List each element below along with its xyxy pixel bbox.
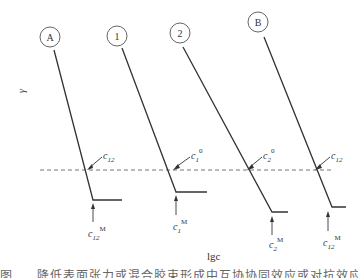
curve-b-cmc-label: c12M <box>323 234 341 251</box>
curve-a-line <box>54 50 122 200</box>
curve-a-label: A <box>46 32 54 43</box>
arrow-head-icon <box>87 164 93 170</box>
curve-1-label: 1 <box>115 31 120 42</box>
arrow-head-icon <box>91 203 95 209</box>
curve-b-line <box>264 37 346 207</box>
curve-2: 2 c20 c2M <box>170 23 288 253</box>
curve-1: 1 c10 c1M <box>107 26 207 235</box>
curve-a-cmc-label: c12M <box>88 225 106 242</box>
curve-2-cmc-label: c2M <box>269 236 284 253</box>
curve-a: A c12 c12M <box>40 27 122 242</box>
arrow-head-icon <box>270 216 274 222</box>
x-axis-label: lgc <box>207 250 221 262</box>
figure-caption: 图 ... 降低表面张力或混合胶束形成中互协协同效应或对抗效应（条件 <box>0 266 358 278</box>
arrow-head-icon <box>326 211 330 217</box>
curve-1-cmc-label: c1M <box>173 218 188 235</box>
curve-1-cross-label: c10 <box>191 147 203 164</box>
y-axis-label: γ <box>16 88 27 93</box>
curve-2-line <box>183 47 288 212</box>
curve-a-cross-label: c12 <box>103 150 115 164</box>
curve-b: B c12 c12M <box>248 12 346 251</box>
diagram-canvas: A c12 c12M 1 c10 c1M 2 <box>0 0 358 278</box>
curve-2-cross-label: c20 <box>263 147 275 164</box>
arrow-head-icon <box>174 195 178 201</box>
curve-b-cross-label: c12 <box>331 150 343 164</box>
surface-tension-diagram: A c12 c12M 1 c10 c1M 2 <box>0 0 358 278</box>
curve-b-label: B <box>255 17 262 28</box>
curve-2-label: 2 <box>178 28 183 39</box>
